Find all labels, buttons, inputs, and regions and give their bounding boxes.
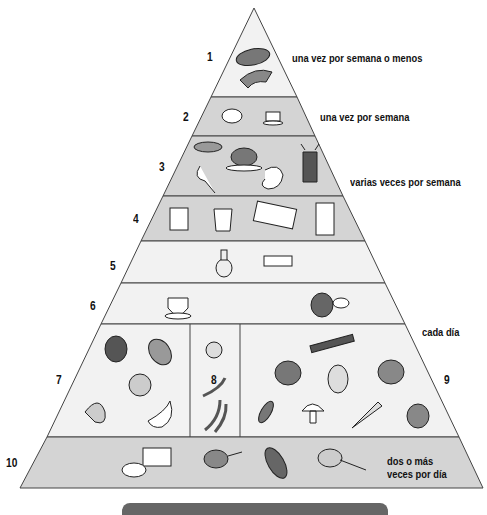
yogurt-icon xyxy=(214,209,232,231)
cereal-bowl-icon xyxy=(204,450,228,468)
frequency-label-10-line1: dos o más xyxy=(387,455,433,468)
tier-number-10: 10 xyxy=(6,456,17,470)
frequency-label-1: una vez por semana o menos xyxy=(292,52,422,65)
tier-number-9: 9 xyxy=(444,373,450,387)
tier-number-4: 4 xyxy=(133,212,139,226)
tier-5 xyxy=(121,241,385,283)
frequency-label-9: cada día xyxy=(422,326,459,339)
tier-number-3: 3 xyxy=(159,160,165,174)
cheese-icon xyxy=(170,208,188,230)
onion-icon xyxy=(407,404,429,428)
orange-icon xyxy=(129,374,151,396)
fish-icon xyxy=(194,142,222,152)
tier-number-5: 5 xyxy=(110,259,116,273)
rice-bowl-icon xyxy=(318,449,342,467)
sugar-bowl-icon xyxy=(222,109,242,123)
apple-icon xyxy=(105,336,127,362)
oil-cruet-icon xyxy=(216,259,232,277)
tea-cup-icon xyxy=(333,298,349,308)
beans-icon xyxy=(206,342,222,358)
tier-number-8: 8 xyxy=(211,373,217,387)
tier-number-7: 7 xyxy=(56,373,62,387)
cabbage-icon xyxy=(378,360,404,384)
frequency-label-2: una vez por semana xyxy=(320,111,409,124)
teapot-icon xyxy=(311,293,333,317)
tier-2 xyxy=(192,97,315,136)
tier-number-2: 2 xyxy=(183,110,189,124)
tier-number-1: 1 xyxy=(207,50,213,64)
butter-icon xyxy=(264,256,292,266)
tomato-icon xyxy=(275,361,301,385)
frequency-label-10-line2: veces por día xyxy=(387,468,447,481)
bread-icon xyxy=(143,448,171,466)
cake-slice-icon xyxy=(266,112,280,121)
tier-number-6: 6 xyxy=(90,299,96,313)
frequency-label-3: varias veces por semana xyxy=(350,176,461,189)
potato-icon xyxy=(328,365,348,393)
milk-carton-icon xyxy=(316,203,334,235)
bottom-bar xyxy=(122,503,388,515)
roast-chicken-icon xyxy=(231,148,257,166)
tier-6 xyxy=(101,283,405,324)
